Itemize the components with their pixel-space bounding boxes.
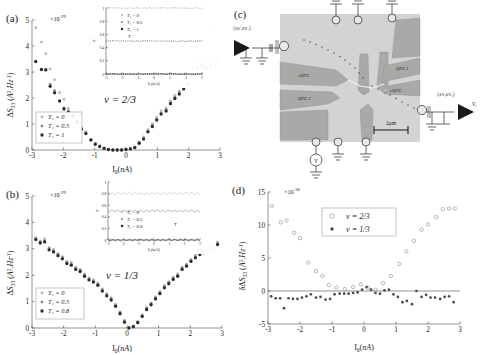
panel-b-nu-annotation: ν = 1/3 bbox=[106, 269, 138, 281]
svg-text:0.2: 0.2 bbox=[100, 59, 105, 63]
svg-text:T₁ = 0.5: T₁ = 0.5 bbox=[127, 217, 143, 222]
panel-a-inset: 00.20.40.60.81-3-2-10123I₀(nA)TT₁ = 0T₁ … bbox=[92, 6, 219, 88]
svg-text:5: 5 bbox=[261, 255, 265, 263]
svg-text:-3: -3 bbox=[107, 242, 110, 246]
panel-b-inset-ylabel: T bbox=[95, 209, 100, 212]
legend-label: T₁ = 0 bbox=[48, 113, 65, 120]
svg-text:1: 1 bbox=[102, 7, 104, 11]
svg-text:3: 3 bbox=[220, 330, 224, 338]
svg-text:5: 5 bbox=[25, 193, 29, 201]
legend-marker bbox=[41, 116, 44, 119]
svg-text:-1: -1 bbox=[329, 326, 335, 334]
svg-text:-2: -2 bbox=[61, 330, 67, 338]
svg-text:T: T bbox=[128, 34, 131, 39]
svg-text:0.4: 0.4 bbox=[100, 46, 105, 50]
svg-text:-3: -3 bbox=[105, 76, 108, 80]
legend-label: T₁ = 0.5 bbox=[48, 298, 69, 305]
panel-d-ylabel: δΔS33 (A2.Hz-1) bbox=[238, 241, 248, 290]
svg-text:3: 3 bbox=[25, 69, 29, 77]
legend-marker bbox=[40, 133, 43, 136]
svg-text:0: 0 bbox=[261, 288, 265, 296]
legend-label: T₁ = 0.5 bbox=[48, 122, 69, 129]
legend-marker bbox=[330, 227, 334, 231]
legend-marker bbox=[40, 309, 43, 312]
svg-text:-2: -2 bbox=[122, 242, 125, 246]
gate-label-cqpc-left: cQPC bbox=[298, 73, 310, 78]
legend-label: ν = 1/3 bbox=[346, 225, 370, 234]
gate-label-qpc1: QPC 1 bbox=[396, 66, 409, 71]
svg-text:2: 2 bbox=[25, 272, 29, 280]
right-output-label: Vᵧ bbox=[472, 101, 477, 107]
svg-text:T₁ = 0: T₁ = 0 bbox=[127, 13, 140, 18]
panel-d-label: (d) bbox=[232, 184, 245, 197]
panel-c-svg: (c) bbox=[232, 0, 480, 176]
legend-marker bbox=[41, 125, 44, 128]
panel-c-label: (c) bbox=[234, 8, 247, 21]
panel-d-xlabel: I0(nA) bbox=[354, 343, 374, 353]
svg-text:T₁ = 1: T₁ = 1 bbox=[127, 27, 139, 32]
svg-text:2: 2 bbox=[187, 152, 191, 160]
panel-d-legend: ν = 2/3ν = 1/3 bbox=[322, 208, 396, 236]
svg-text:0.2: 0.2 bbox=[102, 227, 107, 231]
svg-text:-2: -2 bbox=[297, 326, 303, 334]
svg-text:1: 1 bbox=[25, 121, 29, 129]
svg-text:3: 3 bbox=[25, 245, 29, 253]
svg-text:10: 10 bbox=[258, 222, 266, 230]
svg-text:0.6: 0.6 bbox=[102, 204, 107, 208]
panel-b-exponent: ×10-29 bbox=[50, 190, 67, 198]
right-measurement-circuit bbox=[417, 105, 454, 130]
svg-text:-5: -5 bbox=[259, 321, 265, 329]
svg-text:1: 1 bbox=[104, 181, 106, 185]
svg-text:-1: -1 bbox=[137, 242, 140, 246]
svg-text:T: T bbox=[174, 222, 177, 227]
panel-a-ylabel: ΔS33 (A2.Hz-1) bbox=[6, 72, 16, 117]
svg-text:2: 2 bbox=[25, 95, 29, 103]
panel-a-inset-ylabel: T bbox=[92, 39, 97, 42]
svg-text:0: 0 bbox=[25, 325, 29, 333]
svg-text:0.8: 0.8 bbox=[100, 20, 105, 24]
svg-text:1: 1 bbox=[168, 242, 170, 246]
panel-b-inset-xlabel: I₀(nA) bbox=[148, 247, 160, 252]
legend-label: ν = 2/3 bbox=[346, 212, 370, 221]
svg-text:-2: -2 bbox=[60, 152, 66, 160]
series-filled bbox=[270, 286, 455, 310]
svg-text:-3: -3 bbox=[29, 152, 35, 160]
panel-a: (a) ×10-29 -3-2-10123012345 I0(nA) ΔS33 … bbox=[0, 0, 240, 176]
svg-text:2: 2 bbox=[189, 330, 193, 338]
scale-bar-label: 2μm bbox=[386, 120, 397, 126]
svg-text:2: 2 bbox=[426, 326, 430, 334]
panel-b-xlabel: I0(nA) bbox=[112, 344, 132, 354]
panel-b-svg: (b) ×10-29 -3-2-10123012345 I0(nA) ΔS33 … bbox=[0, 176, 240, 355]
gate-label-cqpc-right: cQPC bbox=[390, 88, 402, 93]
panel-a-nu-annotation: ν = 2/3 bbox=[104, 93, 136, 105]
svg-text:1: 1 bbox=[394, 326, 398, 334]
svg-text:3: 3 bbox=[218, 152, 222, 160]
svg-text:0: 0 bbox=[125, 330, 129, 338]
right-correlator-label: ⟨δVᵧδVᵧ⟩ bbox=[437, 92, 454, 98]
panel-a-legend: T₁ = 0T₁ = 0.5T₁ = 1 bbox=[36, 112, 82, 143]
bottom-ohmic-contacts bbox=[310, 138, 372, 178]
panel-b-label: (b) bbox=[6, 188, 19, 201]
panel-a-svg: (a) ×10-29 -3-2-10123012345 I0(nA) ΔS33 … bbox=[0, 0, 240, 176]
svg-text:T₁ = 0: T₁ = 0 bbox=[127, 210, 140, 215]
svg-text:0: 0 bbox=[153, 76, 155, 80]
panel-c: (c) bbox=[232, 0, 480, 176]
svg-text:1: 1 bbox=[157, 330, 161, 338]
panel-a-xlabel: I0(nA) bbox=[112, 165, 132, 175]
svg-text:0: 0 bbox=[153, 242, 155, 246]
svg-text:1: 1 bbox=[169, 76, 171, 80]
svg-text:4: 4 bbox=[25, 219, 29, 227]
svg-text:0.4: 0.4 bbox=[102, 215, 107, 219]
svg-text:3: 3 bbox=[458, 326, 462, 334]
svg-text:T₁ = 0.5: T₁ = 0.5 bbox=[127, 20, 143, 25]
panel-a-inset-xlabel: I₀(nA) bbox=[148, 81, 160, 86]
svg-text:4: 4 bbox=[25, 43, 29, 51]
svg-text:0.6: 0.6 bbox=[100, 33, 105, 37]
panel-d-svg: (d) ×10-30 -3-2-10123-5051015 I0(nA) δΔS… bbox=[232, 176, 480, 355]
svg-text:3: 3 bbox=[199, 242, 201, 246]
legend-label: T₁ = 0 bbox=[48, 289, 65, 296]
panel-a-label: (a) bbox=[6, 12, 19, 25]
svg-text:-3: -3 bbox=[29, 330, 35, 338]
left-output-label: Vₓ bbox=[234, 41, 239, 47]
panel-d-exponent: ×10-30 bbox=[284, 187, 301, 195]
